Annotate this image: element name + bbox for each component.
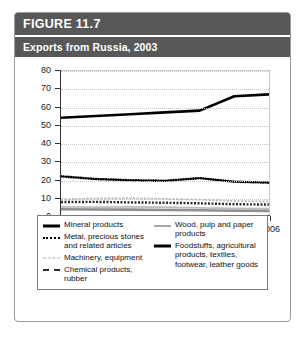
legend-swatch-icon [43, 221, 60, 230]
gridline [61, 199, 269, 200]
y-tick-mark [55, 107, 60, 108]
y-axis [60, 70, 61, 216]
figure-card: FIGURE 11.7 Exports from Russia, 2003 01… [14, 12, 291, 322]
y-tick-mark [55, 198, 60, 199]
legend-item: Foodstuffs, agricultural products, texti… [154, 241, 262, 269]
y-tick-label: 80 [19, 65, 51, 75]
y-tick-mark [55, 70, 60, 71]
y-tick-label: 10 [19, 193, 51, 203]
series-line [61, 209, 269, 211]
series-lines [61, 71, 269, 215]
legend-column-right: Wood, pulp and paper productsFoodstuffs,… [154, 220, 262, 284]
figure-banner: FIGURE 11.7 Exports from Russia, 2003 [15, 13, 290, 58]
legend-column-left: Mineral productsMetal, precious stones a… [43, 220, 146, 284]
legend-item: Mineral products [43, 220, 146, 230]
legend-swatch-icon [43, 266, 60, 275]
legend-label: Metal, precious stones and related artic… [64, 232, 146, 251]
legend-item: Chemical products, rubber [43, 265, 146, 284]
series-line [61, 202, 269, 205]
y-tick-mark [55, 125, 60, 126]
legend-label: Mineral products [64, 220, 123, 229]
gridline [61, 144, 269, 145]
gridline [61, 162, 269, 163]
legend-label: Wood, pulp and paper products [175, 220, 262, 239]
legend-item: Metal, precious stones and related artic… [43, 232, 146, 251]
y-tick-mark [55, 88, 60, 89]
figure-caption: Exports from Russia, 2003 [15, 37, 290, 57]
y-tick-label: 60 [19, 102, 51, 112]
y-tick-label: 70 [19, 83, 51, 93]
legend-label: Chemical products, rubber [64, 265, 146, 284]
y-tick-mark [55, 143, 60, 144]
series-line [61, 94, 269, 117]
gridline [61, 108, 269, 109]
y-tick-label: 30 [19, 156, 51, 166]
legend-swatch-icon [154, 221, 171, 230]
gridline [61, 71, 269, 72]
legend-item: Machinery, equipment [43, 253, 146, 263]
legend-swatch-icon [43, 233, 60, 242]
legend-label: Foodstuffs, agricultural products, texti… [175, 241, 262, 269]
legend-label: Machinery, equipment [64, 253, 142, 262]
y-tick-label: 40 [19, 138, 51, 148]
gridline [61, 126, 269, 127]
legend-item: Wood, pulp and paper products [154, 220, 262, 239]
y-tick-label: 50 [19, 120, 51, 130]
legend-swatch-icon [154, 242, 171, 251]
x-tick-mark [270, 216, 271, 221]
y-tick-mark [55, 180, 60, 181]
chart-legend: Mineral productsMetal, precious stones a… [37, 215, 268, 290]
gridline [61, 181, 269, 182]
legend-swatch-icon [43, 254, 60, 263]
y-tick-label: 20 [19, 175, 51, 185]
series-line [61, 176, 269, 182]
gridline [61, 89, 269, 90]
figure-number-label: FIGURE 11.7 [15, 13, 290, 37]
y-tick-mark [55, 161, 60, 162]
plot-region [60, 70, 270, 216]
